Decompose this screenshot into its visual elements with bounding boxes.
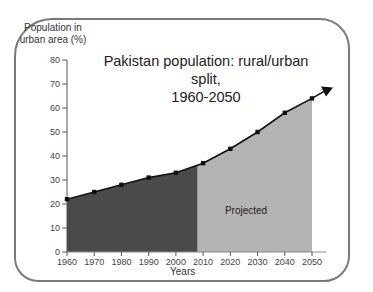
data-point (201, 161, 205, 165)
x-axis-label: Years (170, 266, 195, 277)
y-tick-label: 40 (50, 151, 60, 161)
y-tick-label: 30 (50, 175, 60, 185)
x-tick-label: 2040 (275, 257, 295, 267)
data-point (65, 197, 69, 201)
y-tick-label: 10 (50, 223, 60, 233)
y-tick-label: 50 (50, 127, 60, 137)
region-projected (198, 98, 312, 252)
data-point (92, 190, 96, 194)
x-tick-label: 1980 (111, 257, 131, 267)
y-tick-label: 80 (50, 55, 60, 65)
y-tick-label: 60 (50, 103, 60, 113)
x-tick-label: 1970 (84, 257, 104, 267)
data-point (228, 147, 232, 151)
x-tick-label: 1990 (139, 257, 159, 267)
data-point (146, 175, 150, 179)
x-tick-label: 2050 (302, 257, 322, 267)
region-historical (67, 165, 198, 252)
data-point (255, 130, 259, 134)
data-point (174, 171, 178, 175)
x-tick-label: 2010 (193, 257, 213, 267)
x-tick-label: 2030 (248, 257, 268, 267)
chart-plot: 0102030405060708019601970198019902000201… (0, 0, 373, 292)
data-point (310, 96, 314, 100)
x-tick-label: 2020 (220, 257, 240, 267)
x-tick-label: 1960 (57, 257, 77, 267)
data-point (119, 183, 123, 187)
y-tick-label: 70 (50, 79, 60, 89)
y-tick-label: 0 (55, 247, 60, 257)
data-point (283, 111, 287, 115)
projected-label: Projected (225, 205, 267, 216)
y-tick-label: 20 (50, 199, 60, 209)
